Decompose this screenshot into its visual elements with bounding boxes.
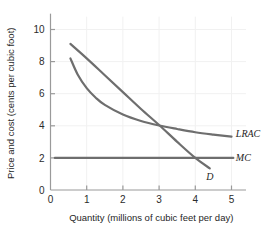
x-tick-label: 1 (84, 194, 90, 205)
curve-label-lrac: LRAC (235, 128, 261, 139)
y-tick-label: 6 (39, 88, 45, 99)
axis-lines (51, 14, 246, 190)
x-tick-label: 3 (156, 194, 162, 205)
y-tick-label: 8 (39, 56, 45, 67)
x-tick-label: 5 (229, 194, 235, 205)
curve-label-d: D (205, 171, 214, 182)
y-tick-label: 10 (33, 24, 45, 35)
curve-lrac (70, 58, 231, 136)
y-tick-label: 2 (39, 153, 45, 164)
data-curves (55, 44, 233, 168)
y-tick-label: 0 (39, 185, 45, 196)
x-tick-label: 0 (48, 194, 54, 205)
x-tick-label: 2 (120, 194, 126, 205)
curve-d (70, 44, 209, 168)
x-tick-label: 4 (193, 194, 199, 205)
y-tick-label: 4 (39, 120, 45, 131)
economics-chart-plot: 0246810012345 DLRACMC Quantity (millions… (0, 0, 265, 233)
chart-figure: 0246810012345 DLRACMC Quantity (millions… (0, 0, 265, 233)
axis-tick-labels: 0246810012345 (33, 24, 234, 205)
gridlines (51, 17, 246, 190)
x-axis-title: Quantity (millions of cubic feet per day… (69, 212, 233, 223)
curve-label-mc: MC (235, 152, 251, 163)
y-axis-title: Price and cost (cents per cubic foot) (5, 28, 16, 180)
